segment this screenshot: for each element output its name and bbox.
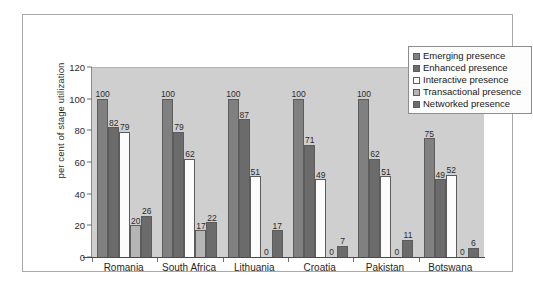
- legend-item[interactable]: Interactive presence: [413, 74, 528, 86]
- bar-value-label: 0: [460, 248, 465, 257]
- bar-group: 10082792026: [92, 67, 157, 257]
- x-axis-label: Romania: [91, 262, 156, 273]
- bar[interactable]: 49: [435, 179, 446, 257]
- x-axis-line: [83, 257, 485, 258]
- bar[interactable]: 52: [446, 175, 457, 257]
- y-axis-tick-mark: [87, 67, 92, 68]
- bar[interactable]: 82: [108, 127, 119, 257]
- bar-slot: 26: [141, 67, 152, 257]
- bar[interactable]: 71: [304, 145, 315, 257]
- bar-value-label: 49: [316, 171, 325, 180]
- bar-slot: 22: [206, 67, 217, 257]
- bar[interactable]: 62: [369, 159, 380, 257]
- bar-slot: 100: [97, 67, 108, 257]
- bar-value-label: 51: [381, 168, 390, 177]
- bar-value-label: 51: [251, 168, 260, 177]
- bar-slot: 71: [304, 67, 315, 257]
- bar[interactable]: 17: [272, 230, 283, 257]
- bar-slot: 17: [272, 67, 283, 257]
- bar-value-label: 79: [174, 123, 183, 132]
- bar-value-label: 20: [131, 217, 140, 226]
- bar[interactable]: 100: [358, 99, 369, 257]
- legend-label: Transactional presence: [423, 86, 521, 98]
- bar-value-label: 87: [240, 111, 249, 120]
- legend-item[interactable]: Emerging presence: [413, 50, 528, 62]
- bar-slot: 7: [337, 67, 348, 257]
- legend-swatch-icon: [413, 77, 420, 84]
- bar-value-label: 26: [142, 207, 151, 216]
- legend-label: Networked presence: [423, 98, 510, 110]
- bar-slot: 100: [358, 67, 369, 257]
- legend-item[interactable]: Enhanced presence: [413, 62, 528, 74]
- bar-slot: 0: [326, 67, 337, 257]
- bar[interactable]: 51: [380, 176, 391, 257]
- bar-value-label: 75: [425, 130, 434, 139]
- bar[interactable]: 62: [184, 159, 195, 257]
- bar[interactable]: 26: [141, 216, 152, 257]
- bar-slot: 79: [119, 67, 130, 257]
- bar-value-label: 52: [447, 166, 456, 175]
- bar[interactable]: 20: [130, 225, 141, 257]
- x-axis-label: Lithuania: [222, 262, 287, 273]
- bar-slot: 100: [162, 67, 173, 257]
- x-axis-label-group: RomaniaSouth AfricaLithuaniaCroatiaPakis…: [91, 262, 483, 273]
- bar-slot: 0: [261, 67, 272, 257]
- bar[interactable]: 51: [250, 176, 261, 257]
- bar-slot: 17: [195, 67, 206, 257]
- bar-value-label: 22: [207, 214, 216, 223]
- bar-value-label: 17: [196, 222, 205, 231]
- bar-slot: 20: [130, 67, 141, 257]
- bar[interactable]: 87: [239, 119, 250, 257]
- legend-label: Enhanced presence: [423, 62, 508, 74]
- bar-slot: 87: [239, 67, 250, 257]
- bar[interactable]: 79: [119, 132, 130, 257]
- bar[interactable]: 6: [468, 248, 479, 258]
- x-axis-label: Croatia: [287, 262, 352, 273]
- bar-value-label: 0: [395, 248, 400, 257]
- bar[interactable]: 100: [293, 99, 304, 257]
- bar-value-label: 7: [340, 237, 345, 246]
- legend-label: Emerging presence: [423, 50, 505, 62]
- bar[interactable]: 79: [173, 132, 184, 257]
- bar-slot: 51: [380, 67, 391, 257]
- legend-item[interactable]: Networked presence: [413, 98, 528, 110]
- bar-value-label: 79: [120, 123, 129, 132]
- bar-slot: 100: [228, 67, 239, 257]
- bar-group: 10079621722: [157, 67, 222, 257]
- x-axis-label: South Africa: [156, 262, 221, 273]
- bar[interactable]: 100: [162, 99, 173, 257]
- bar[interactable]: 100: [228, 99, 239, 257]
- bar-value-label: 49: [436, 171, 445, 180]
- bar-slot: 62: [184, 67, 195, 257]
- bar[interactable]: 100: [97, 99, 108, 257]
- bar-slot: 51: [250, 67, 261, 257]
- legend-swatch-icon: [413, 65, 420, 72]
- bar-slot: 79: [173, 67, 184, 257]
- legend-label: Interactive presence: [423, 74, 509, 86]
- legend-swatch-icon: [413, 101, 420, 108]
- bar[interactable]: 7: [337, 246, 348, 257]
- legend-swatch-icon: [413, 53, 420, 60]
- bar-value-label: 62: [185, 150, 194, 159]
- bar[interactable]: 11: [402, 240, 413, 257]
- bar-value-label: 17: [273, 222, 282, 231]
- bar-value-label: 62: [370, 150, 379, 159]
- bar-value-label: 0: [264, 248, 269, 257]
- chart-frame: per cent of stage utilization 0204060801…: [22, 14, 513, 272]
- bar[interactable]: 17: [195, 230, 206, 257]
- bar[interactable]: 75: [424, 138, 435, 257]
- bar-group: 100714907: [288, 67, 353, 257]
- bar-slot: 0: [391, 67, 402, 257]
- bar-slot: 82: [108, 67, 119, 257]
- bar-group: 1008751017: [223, 67, 288, 257]
- legend-item[interactable]: Transactional presence: [413, 86, 528, 98]
- chart-legend: Emerging presenceEnhanced presenceIntera…: [408, 46, 532, 114]
- bar[interactable]: 22: [206, 222, 217, 257]
- bar-value-label: 0: [329, 248, 334, 257]
- x-axis-label: Pakistan: [352, 262, 417, 273]
- bar[interactable]: 49: [315, 179, 326, 257]
- legend-swatch-icon: [413, 89, 420, 96]
- y-axis-title: per cent of stage utilization: [55, 21, 66, 221]
- bar-slot: 62: [369, 67, 380, 257]
- bar-value-label: 11: [404, 231, 413, 240]
